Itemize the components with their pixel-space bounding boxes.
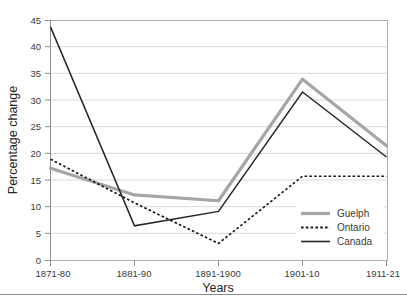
y-tick-labels: 45 40 35 30 25 20 15 10 5 0 bbox=[30, 15, 41, 266]
y-tick-label: 30 bbox=[30, 95, 41, 106]
y-tick-label: 0 bbox=[36, 255, 41, 266]
y-tick-label: 15 bbox=[30, 175, 41, 186]
x-axis bbox=[51, 261, 387, 267]
y-tick-label: 35 bbox=[30, 68, 41, 79]
y-axis-title: Percentage change bbox=[6, 86, 20, 194]
y-tick-label: 45 bbox=[30, 15, 41, 26]
y-axis bbox=[45, 20, 51, 261]
x-tick-label: 1891-1900 bbox=[195, 268, 240, 279]
legend-label-guelph: Guelph bbox=[337, 208, 369, 219]
x-tick-label: 1871-80 bbox=[36, 268, 71, 279]
x-tick-labels: 1871-80 1881-90 1891-1900 1901-10 1911-2… bbox=[36, 268, 401, 279]
y-tick-label: 10 bbox=[30, 201, 41, 212]
y-tick-label: 25 bbox=[30, 121, 41, 132]
figure-bottom-rule bbox=[0, 294, 407, 295]
line-chart-canvas: 45 40 35 30 25 20 15 10 5 0 Percentage c… bbox=[0, 0, 407, 302]
x-tick-label: 1911-21 bbox=[366, 268, 400, 279]
y-tick-label: 40 bbox=[30, 41, 41, 52]
x-axis-title: Years bbox=[202, 281, 234, 295]
chart-figure: 45 40 35 30 25 20 15 10 5 0 Percentage c… bbox=[0, 0, 407, 302]
x-tick-label: 1881-90 bbox=[117, 268, 152, 279]
legend-label-canada: Canada bbox=[337, 236, 372, 247]
x-tick-label: 1901-10 bbox=[285, 268, 320, 279]
y-tick-label: 20 bbox=[30, 148, 41, 159]
chart-legend: Guelph Ontario Canada bbox=[296, 205, 384, 249]
y-tick-label: 5 bbox=[36, 228, 41, 239]
legend-label-ontario: Ontario bbox=[337, 222, 370, 233]
